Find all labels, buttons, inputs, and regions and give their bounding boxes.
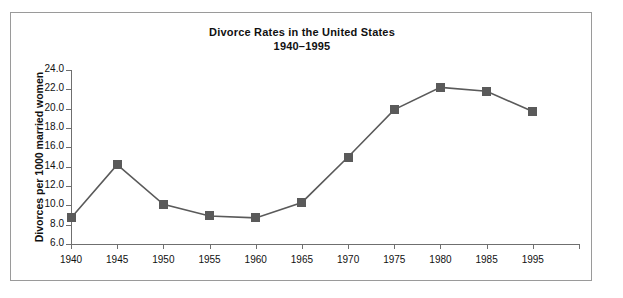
y-axis-tick-label: 6.0	[50, 237, 64, 248]
data-point-marker	[482, 87, 491, 96]
data-point-marker	[113, 160, 122, 169]
chart-title: Divorce Rates in the United States	[11, 25, 593, 39]
chart-subtitle: 1940–1995	[11, 39, 593, 53]
x-axis-tick-mark	[302, 244, 303, 249]
data-point-marker	[390, 105, 399, 114]
x-axis-tick-mark	[533, 244, 534, 249]
data-point-marker	[251, 213, 260, 222]
data-point-marker	[297, 198, 306, 207]
plot-area: 24.022.020.018.016.014.012.010.08.06.0 1…	[71, 70, 579, 244]
x-axis-tick-mark	[394, 244, 395, 249]
x-axis-line	[71, 244, 579, 245]
x-axis-tick-label: 1975	[371, 254, 417, 265]
x-axis-tick-label: 1955	[187, 254, 233, 265]
data-point-marker	[436, 83, 445, 92]
y-axis-tick-label: 16.0	[45, 140, 64, 151]
x-axis-tick-mark	[256, 244, 257, 249]
y-axis-tick-label: 22.0	[45, 82, 64, 93]
data-point-marker	[528, 107, 537, 116]
y-axis-tick-label: 14.0	[45, 160, 64, 171]
x-axis-tick-label: 1940	[48, 254, 94, 265]
series-line	[71, 70, 579, 244]
x-axis-tick-label: 1945	[94, 254, 140, 265]
x-axis-tick-label: 1980	[417, 254, 463, 265]
data-point-marker	[344, 153, 353, 162]
x-axis-tick-label: 1965	[279, 254, 325, 265]
data-point-marker	[159, 200, 168, 209]
y-axis-title: Divorces per 1000 married women	[32, 70, 46, 244]
y-axis-tick-label: 18.0	[45, 121, 64, 132]
x-axis-tick-label: 1950	[140, 254, 186, 265]
x-axis-tick-mark	[163, 244, 164, 249]
x-axis-tick-label: 1960	[233, 254, 279, 265]
x-axis-tick-mark	[487, 244, 488, 249]
x-axis-tick-label: 1985	[464, 254, 510, 265]
x-axis-tick-label: 1995	[510, 254, 556, 265]
y-axis-tick-label: 10.0	[45, 198, 64, 209]
x-axis-tick-mark	[117, 244, 118, 249]
chart-figure: Divorce Rates in the United States 1940–…	[10, 12, 592, 281]
data-point-marker	[67, 213, 76, 222]
chart-title-block: Divorce Rates in the United States 1940–…	[11, 25, 593, 53]
data-point-marker	[205, 211, 214, 220]
x-axis-tick-mark	[579, 244, 580, 249]
x-axis-tick-mark	[210, 244, 211, 249]
x-axis-tick-mark	[348, 244, 349, 249]
x-axis-tick-mark	[71, 244, 72, 249]
x-axis-tick-label: 1970	[325, 254, 371, 265]
x-axis-tick-mark	[440, 244, 441, 249]
y-axis-tick-label: 24.0	[45, 63, 64, 74]
y-axis-tick-label: 20.0	[45, 102, 64, 113]
y-axis-tick-label: 12.0	[45, 179, 64, 190]
y-axis-tick-label: 8.0	[50, 218, 64, 229]
